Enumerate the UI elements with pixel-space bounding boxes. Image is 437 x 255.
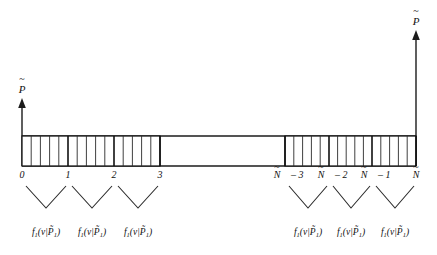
svg-text:f1(v|P̃1): f1(v|P̃1) bbox=[294, 225, 322, 238]
partition-diagram: ~ P ~ P 0 1 2 3 ~ N – 3 ~ N – 2 bbox=[0, 0, 437, 255]
tick-n3-base: N bbox=[273, 169, 282, 180]
tick-label-1: 1 bbox=[66, 169, 71, 180]
formula-6: f1(v|P̃1) bbox=[381, 225, 409, 238]
right-hatched-block bbox=[285, 136, 416, 166]
brace-interval-n1-n bbox=[376, 186, 414, 208]
brace-interval-2-3 bbox=[118, 186, 158, 208]
svg-text:f1(v|P̃1): f1(v|P̃1) bbox=[78, 225, 106, 238]
brace-interval-n2-n1 bbox=[333, 186, 370, 208]
brace-interval-n3-n2 bbox=[289, 186, 327, 208]
right-axis-label: ~ P bbox=[412, 5, 420, 27]
formula-labels: f1(v|P̃1) f1(v|P̃1) f1(v|P̃1) f1(v|P̃1) bbox=[32, 225, 409, 238]
left-tick-labels: 0 1 2 3 bbox=[20, 169, 163, 180]
formula-5: f1(v|P̃1) bbox=[337, 225, 365, 238]
left-axis-label: ~ P bbox=[18, 73, 26, 95]
left-axis-label-base: P bbox=[18, 83, 26, 95]
brace-group bbox=[26, 186, 414, 208]
formula-6-close: ) bbox=[405, 227, 409, 238]
formula-1: f1(v|P̃1) bbox=[32, 225, 60, 238]
tick-n1-suffix: – 1 bbox=[377, 169, 391, 180]
left-hatched-block bbox=[22, 136, 160, 166]
formula-3-close: ) bbox=[148, 227, 152, 238]
tick-n-base: N bbox=[412, 169, 421, 180]
tick-n1-base: N bbox=[360, 169, 369, 180]
formula-5-close: ) bbox=[361, 227, 365, 238]
tick-label-n: ~ N bbox=[412, 161, 421, 180]
svg-text:f1(v|P̃1): f1(v|P̃1) bbox=[124, 225, 152, 238]
svg-text:f1(v|P̃1): f1(v|P̃1) bbox=[381, 225, 409, 238]
tick-label-0: 0 bbox=[20, 169, 25, 180]
formula-1-close: ) bbox=[56, 227, 60, 238]
right-axis-label-base: P bbox=[412, 15, 420, 27]
brace-interval-1-2 bbox=[72, 186, 112, 208]
tick-n2-base: N bbox=[317, 169, 326, 180]
formula-4: f1(v|P̃1) bbox=[294, 225, 322, 238]
formula-4-close: ) bbox=[318, 227, 322, 238]
tick-label-2: 2 bbox=[112, 169, 117, 180]
svg-text:f1(v|P̃1): f1(v|P̃1) bbox=[337, 225, 365, 238]
formula-3: f1(v|P̃1) bbox=[124, 225, 152, 238]
left-axis-arrowhead bbox=[18, 98, 26, 108]
tick-label-3: 3 bbox=[157, 169, 163, 180]
diagram-canvas: ~ P ~ P 0 1 2 3 ~ N – 3 ~ N – 2 bbox=[0, 0, 437, 255]
brace-interval-0-1 bbox=[26, 186, 66, 208]
svg-text:f1(v|P̃1): f1(v|P̃1) bbox=[32, 225, 60, 238]
formula-2: f1(v|P̃1) bbox=[78, 225, 106, 238]
formula-2-close: ) bbox=[102, 227, 106, 238]
tick-n2-suffix: – 2 bbox=[334, 169, 348, 180]
tick-n3-suffix: – 3 bbox=[290, 169, 304, 180]
right-axis-arrowhead bbox=[412, 30, 420, 40]
